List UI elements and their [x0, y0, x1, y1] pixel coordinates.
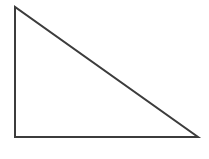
figure-canvas: [0, 0, 209, 159]
triangle-figure: [0, 0, 209, 159]
right-triangle-shape: [15, 7, 198, 137]
